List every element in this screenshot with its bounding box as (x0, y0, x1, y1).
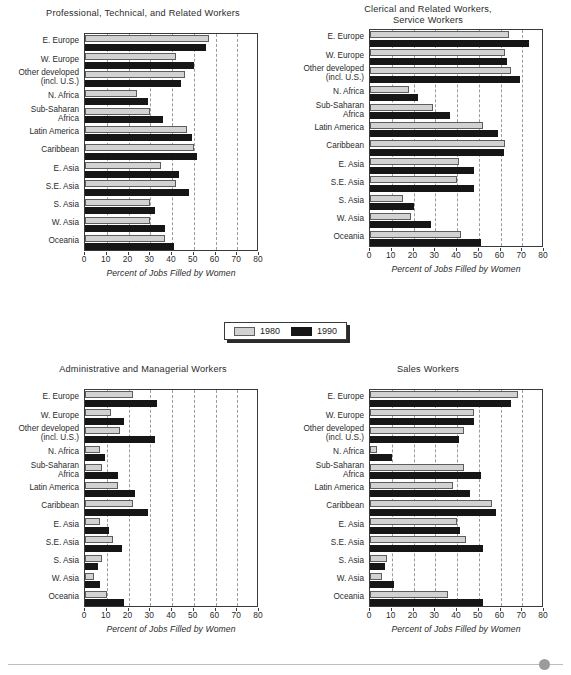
bar-1980 (85, 90, 137, 97)
bar-1990 (370, 509, 496, 516)
x-axis-label: Percent of Jobs Filled by Women (369, 624, 543, 634)
category-label: N. Africa (282, 447, 364, 456)
x-axis-label: Percent of Jobs Filled by Women (369, 264, 543, 274)
x-axis-label: Percent of Jobs Filled by Women (84, 268, 258, 278)
x-tick-label: 50 (473, 610, 482, 620)
bar-group (85, 481, 257, 499)
category-label: Caribbean (0, 145, 79, 154)
bar-1990 (85, 472, 118, 479)
x-tick-label: 60 (495, 610, 504, 620)
bar-1980 (85, 180, 176, 187)
bar-1980 (370, 176, 457, 183)
bar-1990 (370, 167, 474, 174)
x-tick-label: 10 (386, 250, 395, 260)
category-label: Latin America (0, 483, 79, 492)
x-tick-label: 0 (367, 610, 372, 620)
bar-group (370, 194, 542, 212)
bar-1990 (85, 189, 189, 196)
category-label: S. Asia (0, 556, 79, 565)
bar-group (370, 157, 542, 175)
bar-1980 (85, 144, 194, 151)
bar-group (85, 234, 257, 251)
bar-group (85, 572, 257, 590)
bar-group (370, 48, 542, 66)
x-tick-label: 30 (430, 610, 439, 620)
category-label: W. Asia (282, 214, 364, 223)
bar-1980 (85, 71, 185, 78)
category-label: S. Asia (0, 200, 79, 209)
bar-1990 (85, 545, 122, 552)
bar-group (370, 426, 542, 444)
bar-group (85, 590, 257, 607)
bar-1990 (85, 563, 98, 570)
chart-title: Professional, Technical, and Related Wor… (23, 2, 263, 19)
bar-1980 (85, 53, 176, 60)
plot-frame (369, 389, 543, 607)
bar-1990 (370, 221, 431, 228)
bar-1980 (370, 518, 457, 525)
x-axis-ticks: 01020304050607080 (369, 248, 543, 262)
bar-group (370, 535, 542, 553)
x-tick-label: 40 (451, 610, 460, 620)
bar-1980 (85, 464, 102, 471)
category-label: Sub-Saharan Africa (0, 105, 79, 123)
bar-group (85, 179, 257, 197)
bar-group (85, 445, 257, 463)
chart-panel-professional: Professional, Technical, and Related Wor… (0, 2, 286, 302)
bar-group (85, 107, 257, 125)
x-tick-label: 70 (517, 250, 526, 260)
bar-group (85, 463, 257, 481)
x-tick-label: 10 (101, 254, 110, 264)
bar-1980 (370, 86, 409, 93)
bar-1990 (370, 149, 504, 156)
category-label: Latin America (0, 127, 79, 136)
category-label: Oceania (0, 592, 79, 601)
bar-1980 (370, 427, 464, 434)
bar-1980 (85, 573, 94, 580)
category-label: N. Africa (0, 91, 79, 100)
category-label: N. Africa (0, 447, 79, 456)
bar-group (370, 121, 542, 139)
bar-1980 (85, 217, 150, 224)
bar-1980 (370, 573, 382, 580)
bar-group (370, 66, 542, 84)
bar-1980 (85, 35, 209, 42)
bar-1980 (85, 482, 118, 489)
bar-group (85, 89, 257, 107)
bar-1990 (85, 225, 165, 232)
bar-1990 (370, 94, 418, 101)
bar-group (370, 175, 542, 193)
bar-group (370, 408, 542, 426)
bar-1980 (85, 446, 100, 453)
category-label: S. Asia (282, 556, 364, 565)
bar-1980 (85, 518, 100, 525)
x-tick-label: 0 (82, 254, 87, 264)
category-label: Caribbean (282, 501, 364, 510)
bar-group (85, 499, 257, 517)
bar-1990 (85, 134, 192, 141)
x-axis-ticks: 01020304050607080 (84, 608, 258, 622)
x-tick-label: 80 (538, 250, 547, 260)
chart-panel-administrative: Administrative and Managerial WorkersE. … (0, 358, 286, 658)
category-label: E. Asia (282, 160, 364, 169)
bar-group (370, 103, 542, 121)
bar-1980 (370, 482, 453, 489)
bar-1990 (85, 80, 181, 87)
bar-group (370, 590, 542, 607)
bar-1990 (370, 599, 483, 606)
chart-title: Sales Workers (308, 358, 548, 375)
category-label: Latin America (282, 483, 364, 492)
legend-box: 19801990 (224, 322, 347, 340)
plot-area: E. EuropeW. EuropeOther developed (incl.… (0, 33, 286, 285)
x-tick-label: 80 (253, 254, 262, 264)
bar-1980 (85, 536, 113, 543)
chart-panel-sales: Sales WorkersE. EuropeW. EuropeOther dev… (285, 358, 571, 658)
category-label: N. Africa (282, 87, 364, 96)
bar-1990 (85, 171, 179, 178)
bar-1990 (85, 62, 194, 69)
bar-group (370, 554, 542, 572)
category-label: Caribbean (0, 501, 79, 510)
bar-1990 (370, 185, 474, 192)
bar-1990 (370, 112, 450, 119)
bar-1980 (370, 391, 518, 398)
